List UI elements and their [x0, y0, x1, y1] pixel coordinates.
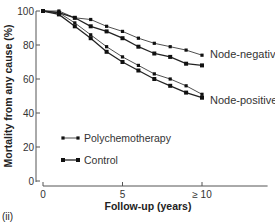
- legend-entry-polychemotherapy: Polychemotherapy: [61, 132, 171, 144]
- x-tick-label: ≥ 10: [192, 189, 212, 200]
- data-point-marker: [136, 69, 140, 73]
- data-point-marker: [41, 9, 45, 13]
- data-point-marker: [121, 36, 125, 40]
- y-tick-label: 60: [23, 74, 35, 85]
- data-point-marker: [136, 45, 140, 49]
- legend-entry-control: Control: [61, 154, 118, 166]
- x-axis-title: Follow-up (years): [105, 200, 192, 212]
- survival-chart: 020406080100 05≥ 10 PolychemotherapyCont…: [0, 0, 275, 224]
- legend-label: Polychemotherapy: [84, 132, 172, 144]
- data-point-marker: [200, 93, 203, 96]
- x-axis: 05≥ 10: [40, 182, 267, 200]
- data-point-marker: [184, 91, 188, 95]
- data-point-marker: [121, 30, 124, 33]
- data-point-marker: [89, 36, 93, 40]
- y-tick-label: 0: [28, 176, 34, 187]
- y-tick-label: 80: [23, 40, 35, 51]
- data-point-marker: [200, 96, 204, 100]
- data-point-marker: [153, 72, 156, 75]
- data-point-marker: [137, 37, 140, 40]
- legend-marker-icon: [61, 136, 64, 139]
- data-point-marker: [89, 24, 93, 28]
- data-point-marker: [121, 55, 124, 58]
- data-point-marker: [105, 29, 109, 33]
- data-point-marker: [152, 52, 156, 56]
- data-point-marker: [105, 50, 109, 54]
- data-point-marker: [105, 25, 108, 28]
- legend-label: Control: [84, 154, 118, 166]
- data-point-marker: [184, 62, 188, 66]
- y-tick-label: 40: [23, 108, 35, 119]
- y-axis-title: Mortality from any cause (%): [2, 25, 14, 168]
- data-point-marker: [185, 49, 188, 52]
- annotations: Node-negativeNode-positive: [210, 48, 275, 106]
- legend-marker-icon: [61, 158, 65, 162]
- legend-marker-icon: [76, 136, 79, 139]
- x-tick-label: 0: [40, 189, 46, 200]
- series-annotation: Node-positive: [210, 94, 275, 106]
- data-point-marker: [200, 54, 203, 57]
- data-point-marker: [57, 12, 61, 16]
- data-point-marker: [137, 64, 140, 67]
- series-node-negative-polychemotherapy: [41, 9, 203, 56]
- y-axis: 020406080100: [17, 6, 40, 187]
- series-node-positive-polychemotherapy: [41, 9, 203, 95]
- legend: PolychemotherapyControl: [61, 132, 172, 166]
- panel-label: (ii): [2, 211, 13, 222]
- data-point-marker: [169, 77, 172, 80]
- series-node-negative-control: [41, 9, 204, 67]
- series-layer: [41, 9, 204, 100]
- series-annotation: Node-negative: [210, 48, 275, 60]
- data-point-marker: [185, 84, 188, 87]
- data-point-marker: [153, 42, 156, 45]
- data-point-marker: [168, 55, 172, 59]
- data-point-marker: [200, 63, 204, 67]
- data-point-marker: [73, 16, 77, 20]
- series-node-positive-control: [41, 9, 204, 100]
- data-point-marker: [152, 77, 156, 81]
- legend-marker-icon: [76, 158, 80, 162]
- x-tick-label: 5: [120, 189, 126, 200]
- data-point-marker: [168, 84, 172, 88]
- data-point-marker: [89, 33, 92, 36]
- data-point-marker: [73, 21, 76, 24]
- data-point-marker: [105, 45, 108, 48]
- data-point-marker: [121, 60, 125, 64]
- data-point-marker: [89, 18, 92, 21]
- y-tick-label: 20: [23, 142, 35, 153]
- data-point-marker: [169, 45, 172, 48]
- y-tick-label: 100: [17, 6, 34, 17]
- data-point-marker: [73, 24, 77, 28]
